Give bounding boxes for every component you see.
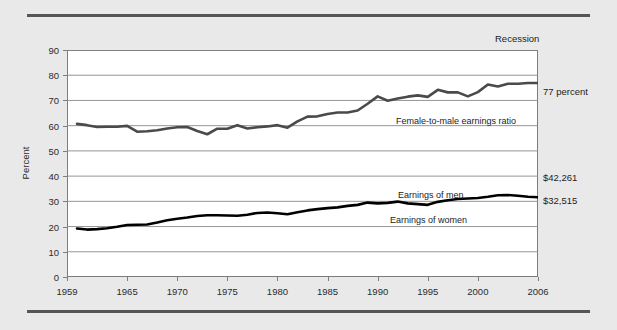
x-tick-label: 1975 xyxy=(207,286,247,297)
y-tick-label: 60 xyxy=(33,120,59,131)
x-tick-label: 2006 xyxy=(518,286,558,297)
series-line-0 xyxy=(77,83,538,134)
x-tick-label: 2000 xyxy=(458,286,498,297)
x-tick-label: 1970 xyxy=(157,286,197,297)
x-tick-mark xyxy=(478,277,479,281)
x-tick-mark xyxy=(538,277,539,281)
y-tick-label: 20 xyxy=(33,221,59,232)
men-earnings-annotation: $42,261 xyxy=(543,172,577,183)
end-ratio-annotation: 77 percent xyxy=(543,86,588,97)
women-earnings-annotation: $32,515 xyxy=(543,195,577,206)
x-tick-mark xyxy=(227,277,228,281)
series-line-1 xyxy=(77,195,538,230)
inline-series-label: Female-to-male earnings ratio xyxy=(396,116,516,126)
bottom-rule xyxy=(27,310,590,313)
x-tick-mark xyxy=(67,277,68,281)
x-tick-mark xyxy=(428,277,429,281)
y-tick-label: 80 xyxy=(33,70,59,81)
y-axis-label: Percent xyxy=(20,147,31,180)
x-tick-mark xyxy=(378,277,379,281)
top-rule xyxy=(27,14,590,17)
y-tick-label: 30 xyxy=(33,196,59,207)
chart-lines xyxy=(67,50,538,277)
x-tick-label: 1959 xyxy=(47,286,87,297)
y-tick-label: 90 xyxy=(33,45,59,56)
x-tick-label: 1990 xyxy=(358,286,398,297)
x-tick-label: 1985 xyxy=(308,286,348,297)
x-tick-mark xyxy=(177,277,178,281)
x-tick-mark xyxy=(328,277,329,281)
recession-annotation: Recession xyxy=(495,33,539,44)
figure-container: Recession Percent 0102030405060708090195… xyxy=(0,0,617,330)
y-tick-label: 40 xyxy=(33,171,59,182)
y-tick-label: 50 xyxy=(33,145,59,156)
x-tick-label: 1965 xyxy=(107,286,147,297)
inline-series-label: Earnings of women xyxy=(390,215,467,225)
x-tick-label: 1980 xyxy=(257,286,297,297)
y-tick-label: 70 xyxy=(33,95,59,106)
x-tick-mark xyxy=(277,277,278,281)
plot-area: Female-to-male earnings ratioEarnings of… xyxy=(67,50,538,277)
y-tick-label: 10 xyxy=(33,246,59,257)
y-tick-label: 0 xyxy=(33,272,59,283)
x-tick-label: 1995 xyxy=(408,286,448,297)
inline-series-label: Earnings of men xyxy=(398,190,464,200)
x-tick-mark xyxy=(127,277,128,281)
